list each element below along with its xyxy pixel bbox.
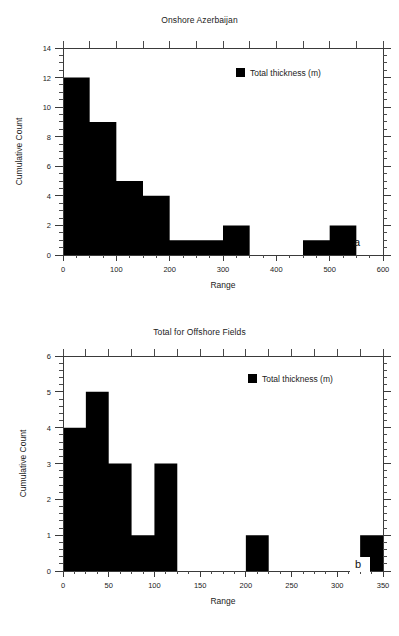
y-tick-label: 4 bbox=[47, 192, 51, 201]
y-tick-label: 2 bbox=[47, 495, 51, 504]
x-tick-label: 300 bbox=[331, 581, 344, 590]
y-tick-label: 0 bbox=[47, 567, 51, 576]
x-tick-label: 300 bbox=[217, 265, 230, 274]
panel-letter: b bbox=[355, 558, 361, 570]
y-tick-label: 1 bbox=[47, 531, 51, 540]
chart-plot-b: 0501001502002503003500123456RangeCumulat… bbox=[0, 316, 399, 636]
chart-plot-a: 010020030040050060002468101214RangeCumul… bbox=[0, 0, 399, 316]
x-tick-label: 350 bbox=[377, 581, 390, 590]
x-axis-title: Range bbox=[210, 596, 235, 606]
x-tick-label: 500 bbox=[323, 265, 336, 274]
legend-swatch bbox=[248, 374, 257, 383]
x-tick-label: 250 bbox=[285, 581, 298, 590]
x-tick-label: 100 bbox=[148, 581, 161, 590]
x-tick-label: 200 bbox=[163, 265, 176, 274]
panel-letter: a bbox=[354, 236, 361, 248]
chart-panel-a: Onshore Azerbaijan 010020030040050060002… bbox=[0, 0, 399, 316]
histogram-bars bbox=[63, 78, 356, 255]
x-tick-label: 100 bbox=[110, 265, 123, 274]
chart-panel-b: Total for Offshore Fields 05010015020025… bbox=[0, 316, 399, 636]
x-tick-label: 600 bbox=[377, 265, 390, 274]
x-axis-title: Range bbox=[210, 280, 235, 290]
legend-label: Total thickness (m) bbox=[250, 68, 321, 78]
y-tick-label: 6 bbox=[47, 162, 51, 171]
y-tick-label: 14 bbox=[43, 44, 51, 53]
y-tick-label: 10 bbox=[43, 103, 51, 112]
y-tick-label: 4 bbox=[47, 424, 51, 433]
y-tick-label: 6 bbox=[47, 352, 51, 361]
legend-label: Total thickness (m) bbox=[262, 374, 333, 384]
x-tick-label: 200 bbox=[240, 581, 253, 590]
y-axis-title: Cumulative Count bbox=[14, 117, 24, 185]
legend: Total thickness (m) bbox=[236, 68, 321, 78]
histogram-bars bbox=[63, 392, 383, 571]
x-tick-label: 400 bbox=[270, 265, 283, 274]
y-tick-label: 2 bbox=[47, 221, 51, 230]
y-tick-label: 5 bbox=[47, 388, 51, 397]
y-tick-label: 8 bbox=[47, 133, 51, 142]
y-tick-label: 12 bbox=[43, 74, 51, 83]
legend: Total thickness (m) bbox=[248, 374, 333, 384]
x-tick-label: 50 bbox=[105, 581, 113, 590]
figure-root: Onshore Azerbaijan 010020030040050060002… bbox=[0, 0, 399, 636]
x-tick-label: 0 bbox=[61, 265, 65, 274]
legend-swatch bbox=[236, 68, 245, 77]
y-tick-label: 0 bbox=[47, 251, 51, 260]
y-tick-label: 3 bbox=[47, 460, 51, 469]
x-tick-label: 150 bbox=[194, 581, 207, 590]
x-tick-label: 0 bbox=[61, 581, 65, 590]
y-axis-title: Cumulative Count bbox=[18, 429, 28, 497]
